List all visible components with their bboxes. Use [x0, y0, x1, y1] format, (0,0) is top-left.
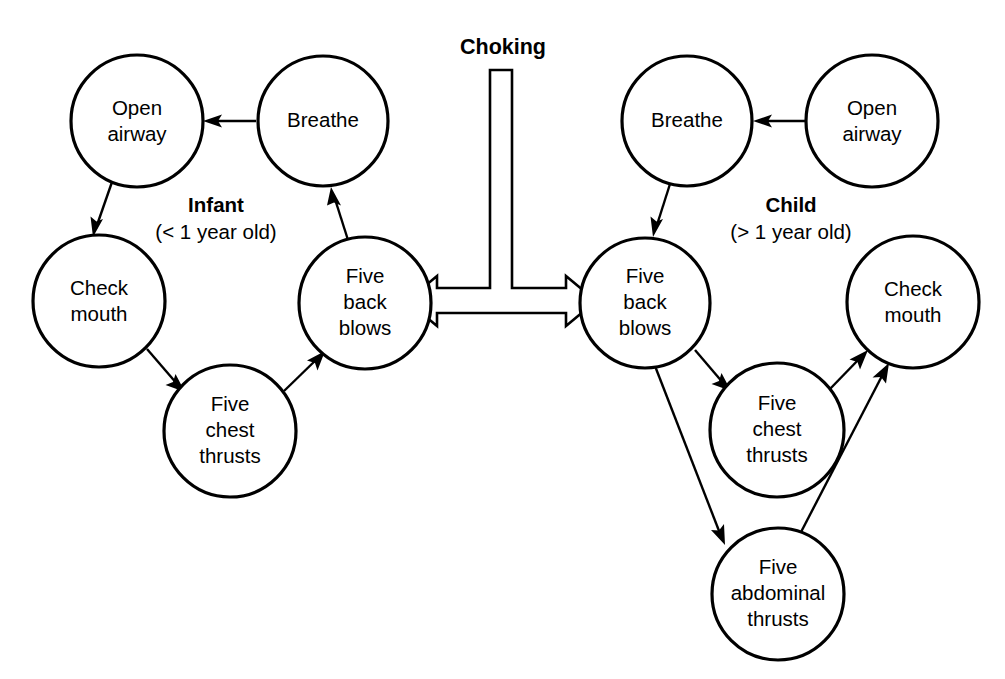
label-infant-back-blows-line1: Five: [346, 264, 385, 287]
node-child-check-mouth[interactable]: [847, 236, 979, 368]
label-child-chest-thrusts-line2: chest: [753, 417, 802, 440]
label-infant-chest-thrusts-line3: thrusts: [199, 444, 261, 467]
diagram-root-title: Choking: [460, 35, 546, 59]
label-infant-check-mouth-line2: mouth: [71, 302, 128, 325]
choking-split-block-arrow: [407, 70, 596, 326]
label-infant-check-mouth-line1: Check: [70, 276, 129, 299]
label-infant-chest-thrusts-line1: Five: [211, 392, 250, 415]
label-child-abdominal-thrusts-line2: abdominal: [731, 581, 826, 604]
node-infant-check-mouth[interactable]: [33, 235, 165, 367]
arrowhead-infant-back-blows-to-breathe: [327, 187, 341, 206]
label-child-open-airway-line1: Open: [847, 96, 897, 119]
group-subtitle-child: (> 1 year old): [730, 220, 851, 243]
edge-child-back-blows-to-chest-thrusts: [695, 350, 724, 384]
label-child-abdominal-thrusts-line1: Five: [759, 555, 798, 578]
label-child-check-mouth-line2: mouth: [885, 303, 942, 326]
label-infant-back-blows-line3: blows: [339, 316, 391, 339]
label-child-chest-thrusts-line3: thrusts: [746, 443, 808, 466]
group-title-infant: Infant: [188, 193, 244, 216]
edge-child-chest-thrusts-to-check-mouth: [829, 357, 861, 390]
label-child-chest-thrusts-line1: Five: [758, 391, 797, 414]
label-child-check-mouth-line1: Check: [884, 277, 943, 300]
edge-child-back-blows-to-abdominal-thrusts: [655, 366, 721, 536]
label-infant-chest-thrusts-line2: chest: [206, 418, 255, 441]
edge-infant-check-mouth-to-chest-thrusts: [147, 349, 178, 385]
label-child-breathe-line1: Breathe: [651, 108, 723, 131]
label-infant-breathe-line1: Breathe: [287, 108, 359, 131]
group-subtitle-infant: (< 1 year old): [155, 220, 276, 243]
edge-infant-chest-thrusts-to-back-blows: [284, 358, 318, 391]
arrowhead-child-breathe-to-back-blows: [651, 217, 664, 238]
choking-flowchart: Open airway Breathe Check mouth Five che…: [0, 0, 1005, 679]
label-child-back-blows-line1: Five: [626, 264, 665, 287]
label-infant-open-airway-line1: Open: [112, 96, 162, 119]
label-infant-open-airway-line2: airway: [107, 122, 167, 145]
label-child-open-airway-line2: airway: [842, 122, 902, 145]
node-child-open-airway[interactable]: [806, 55, 938, 187]
label-child-back-blows-line3: blows: [619, 316, 671, 339]
diagram-canvas: Open airway Breathe Check mouth Five che…: [0, 0, 1005, 679]
label-child-abdominal-thrusts-line3: thrusts: [747, 607, 809, 630]
group-title-child: Child: [765, 193, 816, 216]
label-child-back-blows-line2: back: [623, 290, 667, 313]
node-infant-open-airway[interactable]: [71, 55, 203, 187]
label-infant-back-blows-line2: back: [343, 290, 387, 313]
